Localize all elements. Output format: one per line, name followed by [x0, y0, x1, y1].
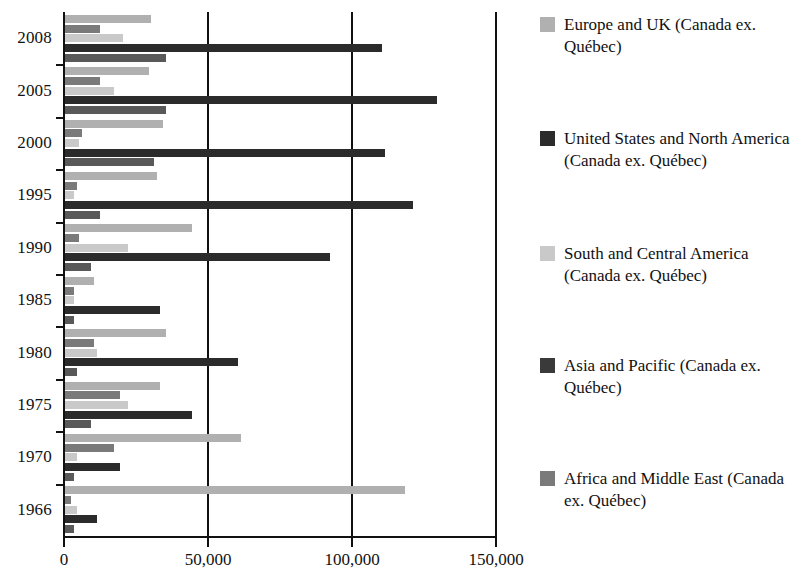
bar [65, 391, 120, 399]
bar [65, 296, 74, 304]
y-axis-label-1980: 1980 [17, 344, 52, 361]
x-axis-tick-label: 150,000 [468, 551, 523, 569]
x-axis-tick-label: 50,000 [185, 551, 232, 569]
bar [65, 525, 74, 533]
y-axis-tick [56, 431, 64, 433]
bar [65, 453, 77, 461]
y-axis-label-2008: 2008 [17, 29, 52, 46]
bar [65, 420, 91, 428]
y-axis-tick [56, 326, 64, 328]
legend-item[interactable]: Europe and UK (Canada ex. Québec) [540, 14, 802, 58]
bar [65, 77, 100, 85]
bar [65, 329, 166, 337]
bar [65, 316, 74, 324]
bar [65, 349, 97, 357]
y-axis-label-2005: 2005 [17, 82, 52, 99]
x-axis-tick-50000 [207, 538, 209, 547]
bar [65, 263, 91, 271]
bar [65, 382, 160, 390]
bar [65, 253, 330, 261]
y-axis-label-1990: 1990 [17, 239, 52, 256]
legend-swatch-icon [540, 246, 555, 261]
legend-item[interactable]: Africa and Middle East (Canada ex. Québe… [540, 468, 802, 512]
bar [65, 182, 77, 190]
x-axis-tick-100000 [351, 538, 353, 547]
bar [65, 496, 71, 504]
bar [65, 54, 166, 62]
bar [65, 234, 79, 242]
y-axis-label-1985: 1985 [17, 291, 52, 308]
plot-area: 2008200520001995199019851980197519701966… [0, 0, 520, 579]
bar [65, 129, 82, 137]
bar [65, 120, 163, 128]
y-axis-label-2000: 2000 [17, 134, 52, 151]
bar [65, 224, 192, 232]
bar [65, 34, 123, 42]
bar [65, 444, 114, 452]
bar [65, 191, 74, 199]
legend-label: Africa and Middle East (Canada ex. Québe… [564, 468, 802, 512]
y-axis-tick [56, 379, 64, 381]
bar [65, 401, 128, 409]
bar [65, 96, 437, 104]
legend-label: Europe and UK (Canada ex. Québec) [564, 14, 802, 58]
x-axis-tick-0 [63, 538, 65, 547]
y-axis-label-1975: 1975 [17, 396, 52, 413]
bar [65, 473, 74, 481]
y-axis-tick [56, 274, 64, 276]
bar-series-container [65, 0, 505, 536]
bar [65, 339, 94, 347]
bar [65, 244, 128, 252]
y-axis-tick [56, 117, 64, 119]
bar [65, 434, 241, 442]
legend-swatch-icon [540, 471, 555, 486]
bar [65, 158, 154, 166]
bar [65, 25, 100, 33]
bar [65, 358, 238, 366]
bar-chart: 2008200520001995199019851980197519701966… [0, 0, 805, 579]
bar [65, 463, 120, 471]
legend-label: United States and North America (Canada … [564, 128, 802, 172]
bar [65, 15, 151, 23]
chart-legend: Europe and UK (Canada ex. Québec)United … [540, 0, 805, 579]
bar [65, 287, 74, 295]
bar [65, 506, 77, 514]
bar [65, 515, 97, 523]
y-axis-tick [56, 169, 64, 171]
bar [65, 67, 149, 75]
legend-item[interactable]: Asia and Pacific (Canada ex. Québec) [540, 355, 802, 399]
y-axis-tick [56, 222, 64, 224]
bar [65, 368, 77, 376]
y-axis-label-1966: 1966 [17, 501, 52, 518]
bar [65, 411, 192, 419]
legend-label: South and Central America (Canada ex. Qu… [564, 243, 802, 287]
legend-swatch-icon [540, 131, 555, 146]
bar [65, 106, 166, 114]
bar [65, 172, 157, 180]
legend-swatch-icon [540, 358, 555, 373]
x-axis-tick-150000 [495, 538, 497, 547]
y-axis-labels: 2008200520001995199019851980197519701966 [0, 0, 58, 536]
legend-item[interactable]: United States and North America (Canada … [540, 128, 802, 172]
y-axis-label-1995: 1995 [17, 186, 52, 203]
legend-swatch-icon [540, 17, 555, 32]
bar [65, 277, 94, 285]
bar [65, 149, 385, 157]
y-axis-label-1970: 1970 [17, 448, 52, 465]
legend-item[interactable]: South and Central America (Canada ex. Qu… [540, 243, 802, 287]
bar [65, 486, 405, 494]
bar [65, 211, 100, 219]
bar [65, 44, 382, 52]
y-axis-tick [56, 64, 64, 66]
legend-label: Asia and Pacific (Canada ex. Québec) [564, 355, 802, 399]
x-axis-tick-label: 100,000 [324, 551, 379, 569]
x-axis-line [63, 536, 497, 538]
bar [65, 306, 160, 314]
bar [65, 201, 413, 209]
y-axis-tick [56, 484, 64, 486]
bar [65, 87, 114, 95]
x-axis-tick-label: 0 [60, 551, 69, 569]
bar [65, 139, 79, 147]
